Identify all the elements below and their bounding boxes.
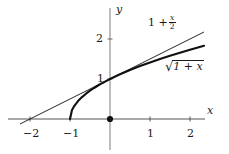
- radical-expression: √1 + x: [165, 60, 204, 73]
- tangent-label-prefix: 1 +: [148, 16, 168, 29]
- fraction-denominator: 2: [169, 23, 176, 31]
- y-axis-label: y: [116, 4, 122, 15]
- x-tick-label--2: −2: [23, 128, 39, 139]
- x-tick-label-2: 2: [187, 128, 194, 139]
- radicand: 1 + x: [172, 60, 203, 72]
- x-tick-label-1: 1: [147, 128, 154, 139]
- origin-dot: [107, 116, 113, 122]
- tangent-line-label: 1 +x2: [148, 14, 176, 31]
- math-figure: y x −2 −1 1 2 1 2 1 +x2 √1 + x: [0, 0, 229, 154]
- x-tick-label--1: −1: [63, 128, 79, 139]
- x-axis-label: x: [207, 105, 213, 116]
- sqrt-curve-label: √1 + x: [165, 60, 204, 73]
- y-tick-label-2: 2: [96, 33, 103, 44]
- sqrt-curve: [70, 46, 204, 119]
- tangent-label-fraction: x2: [169, 14, 176, 31]
- y-tick-label-1: 1: [97, 73, 104, 84]
